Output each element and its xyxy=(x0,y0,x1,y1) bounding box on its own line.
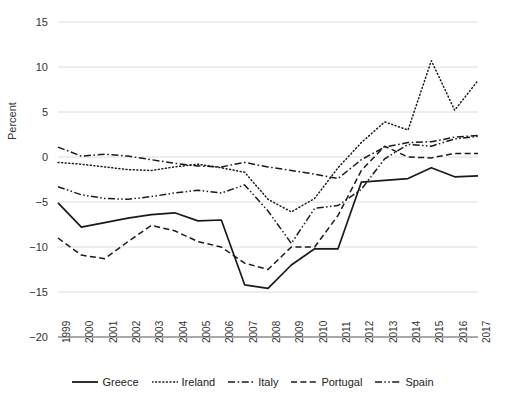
legend-item-ireland: Ireland xyxy=(152,376,216,388)
series-line-portugal xyxy=(58,146,478,269)
legend-swatch-ireland xyxy=(152,377,178,387)
legend-label: Ireland xyxy=(182,376,216,388)
legend-item-greece: Greece xyxy=(72,376,138,388)
legend-item-italy: Italy xyxy=(228,376,278,388)
legend-item-portugal: Portugal xyxy=(291,376,362,388)
legend-swatch-greece xyxy=(72,377,98,387)
legend-label: Portugal xyxy=(321,376,362,388)
legend-swatch-italy xyxy=(228,377,254,387)
legend-label: Italy xyxy=(258,376,278,388)
legend-swatch-portugal xyxy=(291,377,317,387)
series-line-spain xyxy=(58,136,478,243)
chart-legend: GreeceIrelandItalyPortugalSpain xyxy=(0,376,506,388)
legend-label: Spain xyxy=(405,376,433,388)
series-line-ireland xyxy=(58,61,478,212)
legend-swatch-spain xyxy=(375,377,401,387)
plot-area xyxy=(0,0,506,402)
figure: Percent 151050−5−10−15−20 19992000200120… xyxy=(0,0,506,402)
legend-label: Greece xyxy=(102,376,138,388)
legend-item-spain: Spain xyxy=(375,376,433,388)
series-line-greece xyxy=(58,168,478,289)
